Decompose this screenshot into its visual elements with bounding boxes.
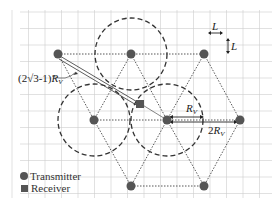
rv-label: RV	[185, 102, 198, 116]
lattice-edge	[167, 120, 204, 186]
distance-label: (2√3-1)RV	[18, 72, 63, 86]
l-h-arrowhead-left	[208, 31, 211, 35]
distance-double-line-a	[60, 56, 139, 103]
grid-x-spacing-label: L	[211, 20, 218, 32]
legend-receiver-label: Receiver	[31, 182, 70, 194]
two-rv-label: 2RV	[208, 124, 225, 138]
transmitter-node	[200, 50, 209, 59]
transmitter-node	[127, 182, 136, 191]
distance-double-line-b	[59, 59, 138, 106]
hex-lattice-edges	[58, 54, 240, 186]
legend: Transmitter Receiver	[20, 170, 81, 194]
transmitter-node	[54, 50, 63, 59]
grid-y-spacing-label: L	[230, 40, 237, 52]
legend-transmitter-label: Transmitter	[30, 170, 81, 182]
transmitter-node	[163, 116, 172, 125]
transmitter-node	[127, 50, 136, 59]
transmitter-node	[236, 116, 245, 125]
receiver-marker	[136, 100, 144, 108]
transmitter-node	[90, 116, 99, 125]
lattice-edge	[94, 120, 131, 186]
receiver-square-icon	[21, 185, 28, 192]
legend-transmitter: Transmitter	[20, 170, 81, 182]
coverage-circles	[58, 18, 203, 156]
transmitter-node	[200, 182, 209, 191]
legend-receiver: Receiver	[20, 182, 81, 194]
l-h-arrowhead-right	[220, 31, 223, 35]
lattice-edge	[58, 54, 94, 120]
transmitter-dot-icon	[20, 172, 28, 180]
lattice-edge	[204, 54, 240, 120]
lattice-edge	[131, 54, 167, 120]
lattice-edge	[131, 120, 167, 186]
